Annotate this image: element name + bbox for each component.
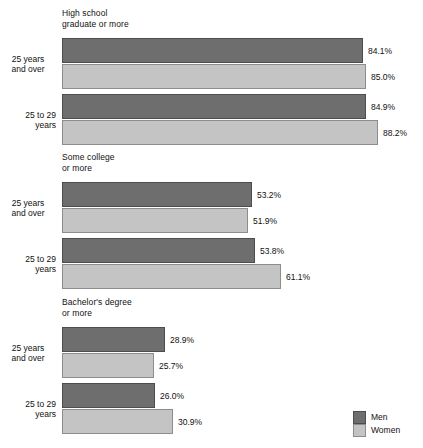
panel-title: High school graduate or more <box>62 8 129 29</box>
bar-value-label: 25.7% <box>159 361 183 371</box>
bar-women <box>62 353 154 378</box>
age-group: 25 years and over28.9%25.7% <box>0 327 423 378</box>
bar-value-label: 28.9% <box>170 335 194 345</box>
educational-attainment-chart: High school graduate or more25 years and… <box>0 0 423 448</box>
age-group: 25 to 29 years53.8%61.1% <box>0 238 423 289</box>
age-group: 25 years and over84.1%85.0% <box>0 38 423 89</box>
panel-title: Bachelor's degree or more <box>62 297 132 318</box>
age-group: 25 to 29 years84.9%88.2% <box>0 94 423 145</box>
legend-swatch-women-icon <box>353 424 366 437</box>
bar-value-label: 84.1% <box>368 46 392 56</box>
bar-men <box>62 38 363 63</box>
bar-women <box>62 264 281 289</box>
bar-value-label: 84.9% <box>371 102 395 112</box>
bar-value-label: 30.9% <box>178 417 202 427</box>
bar-value-label: 53.2% <box>257 190 281 200</box>
legend-item-women: Women <box>353 424 419 437</box>
bar-value-label: 61.1% <box>286 272 310 282</box>
legend-swatch-men-icon <box>353 411 366 424</box>
age-group-label: 25 years and over <box>0 53 56 74</box>
legend-label-women: Women <box>371 425 400 436</box>
bar-women <box>62 208 248 233</box>
age-group-label: 25 to 29 years <box>0 398 56 419</box>
bar-men <box>62 182 252 207</box>
age-group: 25 years and over53.2%51.9% <box>0 182 423 233</box>
bar-men <box>62 327 165 352</box>
bar-women <box>62 64 366 89</box>
bar-value-label: 51.9% <box>253 216 277 226</box>
bar-value-label: 88.2% <box>383 128 407 138</box>
legend-item-men: Men <box>353 411 419 424</box>
age-group-label: 25 years and over <box>0 197 56 218</box>
age-group-label: 25 to 29 years <box>0 109 56 130</box>
bar-men <box>62 238 255 263</box>
panel-title: Some college or more <box>62 152 115 173</box>
bar-women <box>62 409 173 434</box>
age-group-label: 25 to 29 years <box>0 253 56 274</box>
legend-label-men: Men <box>371 412 388 423</box>
age-group-label: 25 years and over <box>0 342 56 363</box>
chart-legend: Men Women <box>353 411 419 437</box>
bar-men <box>62 383 155 408</box>
bar-value-label: 85.0% <box>371 72 395 82</box>
bar-value-label: 53.8% <box>260 246 284 256</box>
bar-value-label: 26.0% <box>160 391 184 401</box>
bar-women <box>62 120 378 145</box>
bar-men <box>62 94 366 119</box>
